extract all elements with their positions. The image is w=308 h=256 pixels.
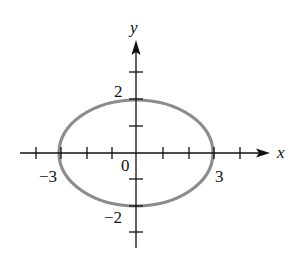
y-axis-label: y (128, 18, 138, 37)
tick-label-x-3: 3 (215, 167, 224, 186)
tick-label-y-neg2: −2 (104, 208, 122, 227)
tick-label-x-neg3: −3 (39, 167, 57, 186)
x-axis-label: x (276, 143, 285, 162)
y-axis (129, 40, 143, 248)
tick-label-y-2: 2 (114, 82, 123, 101)
ellipse-diagram: y x 2 0 −3 3 −2 (0, 0, 308, 256)
tick-label-origin: 0 (121, 156, 130, 175)
x-axis (20, 147, 270, 159)
